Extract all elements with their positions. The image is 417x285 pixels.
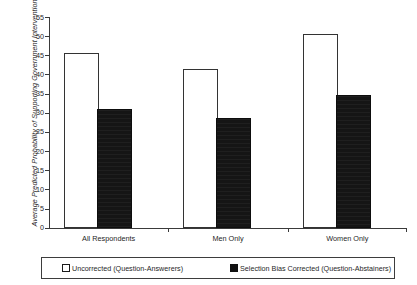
bar-corrected <box>336 95 371 227</box>
y-axis-tick-label: 30 <box>25 108 44 117</box>
x-axis-label-women-only: Women Only <box>288 234 407 243</box>
y-axis-tick-mark <box>45 36 49 37</box>
legend-item-uncorrected: Uncorrected (Question-Answerers) <box>62 264 183 273</box>
y-axis-tick-mark <box>45 132 49 133</box>
legend-label-corrected: Selection Bias Corrected (Question-Absta… <box>240 264 391 273</box>
y-axis-tick-label: 20 <box>25 147 44 156</box>
bar-corrected <box>216 118 251 227</box>
y-axis-tick-mark <box>45 170 49 171</box>
y-axis-tick-mark <box>45 17 49 18</box>
bar-texture <box>217 119 250 226</box>
x-axis-tick-mark <box>288 228 289 232</box>
y-axis-tick-label: 40 <box>25 70 44 79</box>
y-axis-tick-mark <box>45 113 49 114</box>
y-axis-tick-label: 50 <box>25 32 44 41</box>
legend-swatch-corrected-icon <box>230 264 238 272</box>
bar-corrected <box>97 109 132 228</box>
x-axis-tick-mark <box>168 228 169 232</box>
x-axis-line <box>49 228 407 229</box>
x-axis-tick-mark <box>406 228 407 232</box>
x-axis-label-all-respondents: All Respondents <box>49 234 168 243</box>
y-axis-tick-mark <box>45 74 49 75</box>
bar-uncorrected <box>64 53 99 227</box>
y-axis-tick-label: 25 <box>25 127 44 136</box>
plot-area: 0510152025303540455055 All RespondentsMe… <box>49 17 407 229</box>
y-axis-tick-label: 10 <box>25 185 44 194</box>
y-axis-tick-mark <box>45 55 49 56</box>
y-axis-line <box>49 17 50 229</box>
bar-chart-figure: Average Predicted Probability of Support… <box>0 0 417 285</box>
y-axis-tick-label: 15 <box>25 166 44 175</box>
y-axis-tick-label: 55 <box>25 13 44 22</box>
y-axis-tick-mark <box>45 94 49 95</box>
legend-item-corrected: Selection Bias Corrected (Question-Absta… <box>230 264 391 273</box>
legend-label-uncorrected: Uncorrected (Question-Answerers) <box>72 264 183 273</box>
bar-uncorrected <box>303 34 338 228</box>
chart-legend: Uncorrected (Question-Answerers) Selecti… <box>41 257 395 279</box>
y-axis-tick-mark <box>45 151 49 152</box>
y-axis-tick-label: 0 <box>25 223 44 232</box>
bar-uncorrected <box>183 69 218 228</box>
x-axis-label-men-only: Men Only <box>168 234 287 243</box>
y-axis-tick-label: 35 <box>25 89 44 98</box>
y-axis-tick-label: 45 <box>25 51 44 60</box>
y-axis-tick-label: 5 <box>25 204 44 213</box>
y-axis-tick-mark <box>45 209 49 210</box>
bar-texture <box>98 110 131 227</box>
legend-swatch-uncorrected-icon <box>62 264 70 272</box>
y-axis-tick-mark <box>45 228 49 229</box>
y-axis-tick-mark <box>45 189 49 190</box>
bar-texture <box>337 96 370 226</box>
